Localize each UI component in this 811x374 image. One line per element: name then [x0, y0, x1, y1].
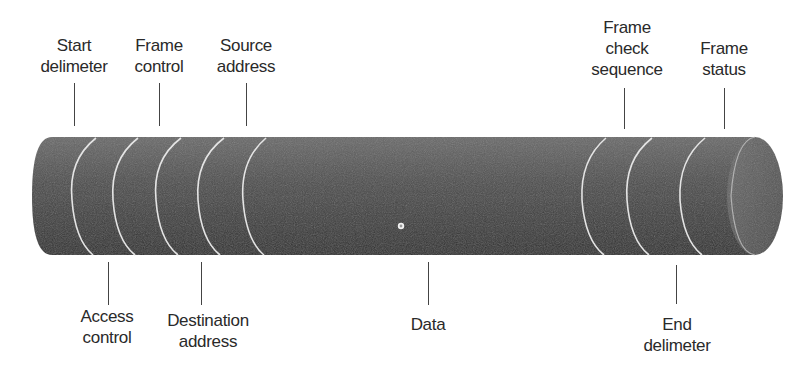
label-source-address: Source address: [217, 35, 275, 77]
cylinder-end-cap: [727, 137, 783, 255]
leader-data: [428, 262, 429, 305]
label-destination-address: Destination address: [167, 310, 249, 352]
leader-source-address: [246, 83, 247, 126]
cylinder-body: [32, 137, 755, 255]
leader-destination-address: [201, 262, 202, 305]
leader-access-control: [108, 262, 109, 305]
leader-frame-check-sequence: [624, 88, 625, 129]
leader-start-delimeter: [74, 83, 75, 126]
label-frame-check-sequence: Frame check sequence: [591, 17, 662, 80]
label-frame-status: Frame status: [700, 38, 748, 80]
label-frame-control: Frame control: [135, 35, 184, 77]
leader-frame-control: [159, 83, 160, 126]
label-access-control: Access control: [81, 306, 134, 348]
label-start-delimeter: Start delimeter: [40, 35, 107, 77]
leader-frame-status: [724, 88, 725, 129]
label-data: Data: [411, 314, 446, 335]
leader-end-delimeter: [676, 265, 677, 304]
label-end-delimeter: End delimeter: [643, 314, 710, 356]
